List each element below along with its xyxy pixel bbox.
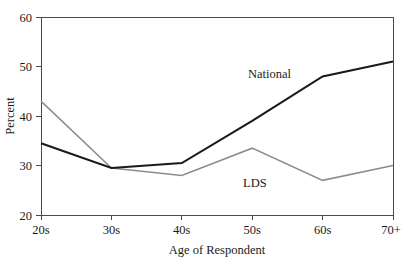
y-tick-label-50: 50 <box>20 60 33 74</box>
chart-container: 60 50 40 30 20 20s 30s 40s 50s 60s 70+ P… <box>0 0 411 266</box>
series-line-lds <box>41 101 393 180</box>
x-axis-tick-labels: 20s 30s 40s 50s 60s 70+ <box>32 223 400 237</box>
x-axis-ticks <box>41 215 393 220</box>
series-label-lds: LDS <box>243 176 267 190</box>
y-tick-label-40: 40 <box>20 110 33 124</box>
x-tick-label-20s: 20s <box>32 223 50 237</box>
x-tick-label-50s: 50s <box>244 223 262 237</box>
y-axis-title: Percent <box>3 97 17 135</box>
x-axis-title: Age of Respondent <box>169 243 266 257</box>
x-tick-label-60s: 60s <box>314 223 332 237</box>
y-tick-label-30: 30 <box>20 159 33 173</box>
line-chart: 60 50 40 30 20 20s 30s 40s 50s 60s 70+ P… <box>0 0 411 266</box>
x-tick-label-70plus: 70+ <box>381 223 401 237</box>
y-tick-label-60: 60 <box>20 11 33 25</box>
y-axis-ticks <box>36 17 41 215</box>
y-tick-label-20: 20 <box>20 209 33 223</box>
y-axis-tick-labels: 60 50 40 30 20 <box>20 11 33 223</box>
x-tick-label-30s: 30s <box>103 223 121 237</box>
x-tick-label-40s: 40s <box>173 223 191 237</box>
series-label-national: National <box>248 67 292 81</box>
